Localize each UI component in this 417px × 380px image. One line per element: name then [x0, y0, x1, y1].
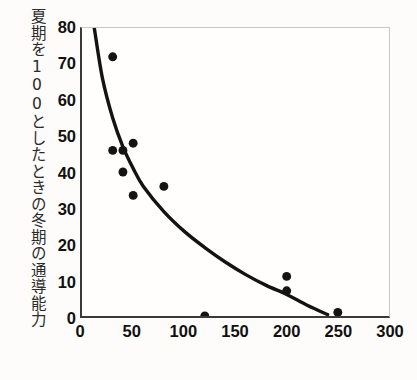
- data-point: [118, 168, 127, 177]
- y-tick-label: 80: [44, 18, 76, 37]
- y-tick-label: 60: [44, 90, 76, 109]
- y-tick-label: 50: [44, 127, 76, 146]
- data-point: [159, 182, 168, 191]
- data-point: [200, 312, 209, 316]
- data-point: [108, 52, 117, 61]
- data-point: [282, 272, 291, 281]
- y-tick-label: 20: [44, 236, 76, 255]
- figure-container: 夏期を100としたときの冬期の通導能力 01020304050607080 05…: [0, 0, 417, 380]
- data-point: [333, 308, 342, 316]
- y-axis-tick-labels: 01020304050607080: [44, 27, 76, 318]
- x-tick-label: 200: [264, 322, 310, 341]
- data-point: [129, 191, 138, 200]
- y-tick-label: 70: [44, 54, 76, 73]
- y-tick-label: 40: [44, 163, 76, 182]
- data-point: [129, 139, 138, 148]
- data-point: [118, 146, 127, 155]
- x-tick-label: 50: [109, 322, 155, 341]
- fit-curve: [94, 28, 327, 315]
- x-tick-label: 0: [57, 322, 103, 341]
- plot-area: [80, 27, 390, 318]
- x-tick-label: 250: [315, 322, 361, 341]
- x-tick-label: 100: [160, 322, 206, 341]
- x-tick-label: 150: [212, 322, 258, 341]
- x-tick-label: 300: [367, 322, 413, 341]
- y-tick-label: 30: [44, 199, 76, 218]
- fit-curve-group: [94, 28, 327, 315]
- y-tick-label: 10: [44, 272, 76, 291]
- data-point: [282, 286, 291, 295]
- plot-svg: [82, 28, 389, 316]
- y-axis-label: 夏期を100としたときの冬期の通導能力: [14, 8, 44, 338]
- data-point: [108, 146, 117, 155]
- x-axis-tick-labels: 050100150200250300: [80, 322, 390, 346]
